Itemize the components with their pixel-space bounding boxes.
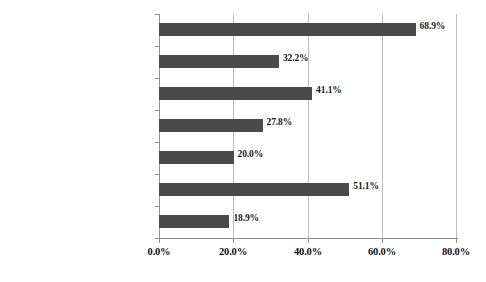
y-axis-tick [155, 142, 159, 143]
bar-value-label: 27.8% [267, 117, 293, 127]
x-axis-tick-label: 20.0% [219, 246, 247, 257]
bar [159, 151, 234, 164]
y-axis-tick [155, 206, 159, 207]
x-axis-tick-label: 60.0% [368, 246, 396, 257]
y-axis-tick [155, 110, 159, 111]
x-axis-tick [159, 238, 160, 243]
bar-value-label: 51.1% [353, 181, 379, 191]
x-axis-tick [308, 238, 309, 243]
y-axis-tick [155, 14, 159, 15]
x-axis-tick [382, 238, 383, 243]
y-axis-tick [155, 174, 159, 175]
bar [159, 215, 229, 228]
x-axis-tick [456, 238, 457, 243]
gridline-40 [308, 14, 309, 238]
bar [159, 87, 312, 100]
x-axis-tick-label: 0.0% [148, 246, 171, 257]
bar [159, 119, 263, 132]
bar [159, 23, 416, 36]
bar [159, 183, 349, 196]
x-axis-tick-label: 80.0% [442, 246, 470, 257]
plot-area: 68.9% 32.2% 41.1% 27.8% 20.0% 51.1% 18.9… [159, 14, 457, 238]
bar-value-label: 68.9% [420, 21, 446, 31]
gridline-60 [382, 14, 383, 238]
x-axis-tick [233, 238, 234, 243]
bar [159, 55, 279, 68]
bar-value-label: 20.0% [238, 149, 264, 159]
gridline-80 [456, 14, 457, 238]
bar-value-label: 32.2% [283, 53, 309, 63]
x-axis-tick-label: 40.0% [294, 246, 322, 257]
bar-value-label: 41.1% [316, 85, 342, 95]
bar-value-label: 18.9% [233, 213, 259, 223]
y-axis-tick [155, 78, 159, 79]
bar-chart-figure: 68.9% 32.2% 41.1% 27.8% 20.0% 51.1% 18.9… [0, 0, 486, 282]
y-axis-tick [155, 46, 159, 47]
